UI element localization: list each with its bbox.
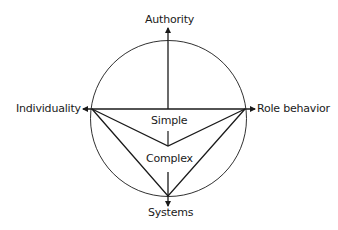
role-behavior-label: Role behavior [257,103,330,114]
individuality-label: Individuality [16,103,81,114]
simple-label: Simple [151,115,187,126]
systems-label: Systems [148,207,193,218]
complex-label: Complex [146,153,193,164]
authority-label: Authority [145,14,194,25]
